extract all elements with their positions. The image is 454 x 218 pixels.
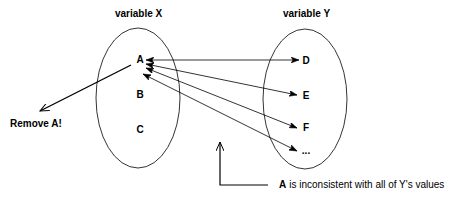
edge-a-f: [146, 68, 297, 128]
variable-y-title: variable Y: [283, 8, 330, 20]
y-value-f: F: [303, 122, 309, 134]
annotation-body: is inconsistent with all of Y's values: [289, 179, 444, 190]
remove-arrow: [40, 65, 131, 111]
x-value-a: A: [136, 54, 143, 66]
y-value-d: D: [302, 55, 309, 67]
y-value-e: E: [303, 90, 310, 102]
domain-consistency-diagram: variable X variable Y A B C D E F ... Re…: [0, 0, 454, 218]
edge-a-e: [146, 64, 297, 95]
y-value-ellipsis: ...: [302, 145, 310, 157]
annotation-emphasis: A: [279, 179, 286, 190]
x-value-b: B: [136, 89, 143, 101]
variable-x-title: variable X: [115, 8, 162, 20]
x-value-c: C: [136, 124, 143, 136]
remove-a-label: Remove A!: [10, 118, 62, 130]
annotation-text: Ais inconsistent with all of Y's values: [279, 179, 444, 191]
edge-a-ellipsis: [143, 74, 297, 151]
annotation-pointer: [220, 142, 268, 185]
